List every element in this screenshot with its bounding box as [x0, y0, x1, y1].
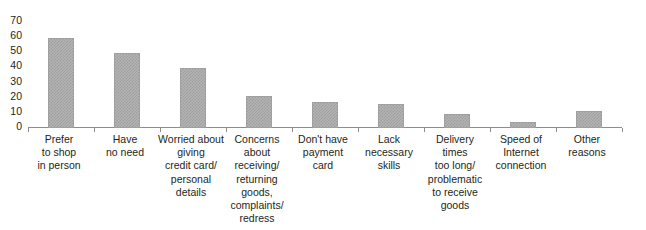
x-axis-label: Delivery times too long/ problematic to …: [420, 133, 490, 212]
y-tick-40: 40: [10, 60, 22, 71]
y-axis-tick-labels: 70 60 50 40 30 20 10 0: [0, 0, 26, 230]
bar: [114, 53, 140, 128]
y-tick-30: 30: [10, 76, 22, 87]
bar-slot: [94, 15, 160, 128]
x-axis-tick: [160, 128, 161, 132]
x-axis-tick: [622, 128, 623, 132]
x-axis-tick: [358, 128, 359, 132]
x-axis-tick: [490, 128, 491, 132]
x-axis-label: Don't have payment card: [288, 133, 358, 173]
bar: [510, 122, 536, 128]
x-axis-tick: [94, 128, 95, 132]
bar: [312, 102, 338, 128]
x-axis-label: Worried about giving credit card/ person…: [156, 133, 226, 199]
bar: [378, 104, 404, 128]
y-tick-10: 10: [10, 106, 22, 117]
x-axis-tick: [28, 128, 29, 132]
x-axis-label: Prefer to shop in person: [24, 133, 94, 173]
x-axis-tick: [424, 128, 425, 132]
bar-slot: [490, 15, 556, 128]
bar: [444, 114, 470, 128]
bar: [48, 38, 74, 128]
bar-series: [28, 14, 622, 128]
x-axis-label: Lack necessary skills: [354, 133, 424, 173]
bar-slot: [556, 15, 622, 128]
bar: [576, 111, 602, 128]
bar-chart: 70 60 50 40 30 20 10 0 Prefer to shop in…: [0, 0, 646, 230]
bar-slot: [160, 15, 226, 128]
x-axis-label: Have no need: [90, 133, 160, 159]
bar-slot: [226, 15, 292, 128]
bar-slot: [28, 15, 94, 128]
x-axis-tick: [226, 128, 227, 132]
x-axis-tick: [292, 128, 293, 132]
bar: [180, 68, 206, 128]
x-axis-label: Other reasons: [552, 133, 622, 159]
bar-slot: [358, 15, 424, 128]
cropped-chart-title: [36, 0, 596, 5]
y-tick-60: 60: [10, 30, 22, 41]
bar-slot: [424, 15, 490, 128]
x-axis-category-labels: Prefer to shop in personHave no needWorr…: [28, 133, 622, 228]
y-tick-0: 0: [16, 121, 22, 132]
y-tick-20: 20: [10, 91, 22, 102]
x-axis-label: Concerns about receiving/ returning good…: [222, 133, 292, 225]
bar: [246, 96, 272, 128]
y-tick-50: 50: [10, 45, 22, 56]
y-tick-70: 70: [10, 15, 22, 26]
x-axis-tick: [556, 128, 557, 132]
x-axis-label: Speed of Internet connection: [486, 133, 556, 173]
bar-slot: [292, 15, 358, 128]
